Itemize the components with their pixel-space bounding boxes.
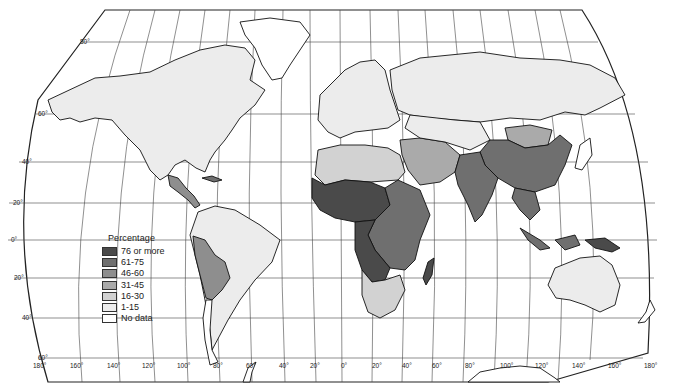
lon-label-17: 160° (608, 362, 622, 369)
legend-item: 16-30 (102, 291, 182, 302)
lon-label-13: 80° (465, 362, 475, 369)
legend-label: 46-60 (121, 269, 144, 278)
lon-label-7: 40° (279, 362, 289, 369)
lon-label-18: 180° (644, 362, 658, 369)
legend-swatch (102, 292, 117, 301)
region-north-africa (315, 145, 405, 185)
lon-label-12: 60° (432, 362, 442, 369)
lon-label-6: 60° (246, 362, 256, 369)
legend-swatch (102, 281, 117, 290)
lon-label-5: 80° (213, 362, 223, 369)
lon-label-2: 140° (107, 362, 121, 369)
lon-label-11: 40° (402, 362, 412, 369)
lon-label-16: 140° (572, 362, 586, 369)
world-map: 80° 60° 40° 20° 0° 20° 40° 60° 180° 160°… (0, 0, 683, 388)
legend-label: 1-15 (121, 303, 139, 312)
lon-label-8: 20° (310, 362, 320, 369)
legend-label: No data (121, 314, 153, 323)
lon-label-14: 100° (500, 362, 514, 369)
legend-swatch (102, 303, 117, 312)
lat-label-20s: 20° (14, 274, 24, 281)
legend-swatch (102, 269, 117, 278)
legend-swatch (102, 258, 117, 267)
legend-item: 61-75 (102, 257, 182, 268)
lon-label-0: 180° (33, 362, 47, 369)
lat-label-60s: 60° (38, 354, 48, 361)
map-legend: Percentage 76 or more 61-75 46-60 31-45 … (102, 233, 182, 324)
legend-label: 31-45 (121, 281, 144, 290)
lon-label-15: 120° (535, 362, 549, 369)
legend-title: Percentage (108, 233, 182, 243)
lat-label-60n: 60° (38, 110, 48, 117)
legend-item: 76 or more (102, 246, 182, 257)
lat-label-20n: 20° (13, 199, 23, 206)
legend-label: 76 or more (121, 247, 165, 256)
lon-label-9: 0° (341, 362, 348, 369)
lat-label-40s: 40° (22, 314, 32, 321)
lat-label-80n: 80° (80, 38, 90, 45)
legend-label: 16-30 (121, 292, 144, 301)
lon-label-3: 120° (142, 362, 156, 369)
lon-label-10: 20° (372, 362, 382, 369)
legend-label: 61-75 (121, 258, 144, 267)
legend-item: 31-45 (102, 280, 182, 291)
legend-item: 46-60 (102, 268, 182, 279)
lon-label-1: 160° (70, 362, 84, 369)
legend-swatch (102, 247, 117, 256)
legend-item: No data (102, 313, 182, 324)
lat-label-40n: 40° (22, 158, 32, 165)
lon-label-4: 100° (177, 362, 191, 369)
legend-swatch (102, 314, 117, 323)
legend-item: 1-15 (102, 302, 182, 313)
lat-label-0: 0° (11, 236, 18, 243)
